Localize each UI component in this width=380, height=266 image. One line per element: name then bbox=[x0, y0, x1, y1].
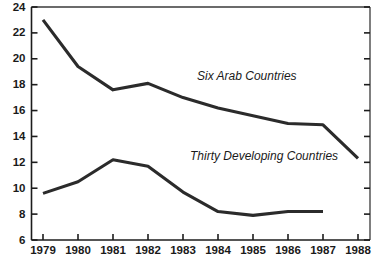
x-tick-label: 1986 bbox=[275, 244, 301, 256]
series-line bbox=[43, 160, 323, 216]
series-label: Thirty Developing Countries bbox=[190, 149, 338, 163]
y-tick-label: 22 bbox=[13, 26, 26, 38]
y-axis-tick-labels: 681012141618202224 bbox=[13, 1, 26, 246]
y-axis-tick-marks bbox=[32, 7, 38, 240]
x-tick-label: 1981 bbox=[100, 244, 126, 256]
y-tick-label: 18 bbox=[13, 78, 26, 90]
y-tick-label: 8 bbox=[19, 208, 26, 220]
x-axis-tick-labels: 1979198019811982198319841985198619871988 bbox=[30, 244, 371, 256]
y-tick-label: 6 bbox=[19, 234, 25, 246]
y-tick-label: 20 bbox=[13, 52, 26, 64]
x-tick-label: 1982 bbox=[135, 244, 161, 256]
x-tick-label: 1979 bbox=[30, 244, 56, 256]
x-tick-label: 1987 bbox=[310, 244, 336, 256]
y-tick-label: 12 bbox=[13, 156, 26, 168]
chart-container: 681012141618202224 197919801981198219831… bbox=[0, 0, 380, 266]
x-tick-label: 1983 bbox=[170, 244, 196, 256]
series-annotation-group: Six Arab CountriesThirty Developing Coun… bbox=[190, 69, 338, 163]
y-tick-label: 16 bbox=[13, 104, 26, 116]
x-tick-label: 1984 bbox=[205, 244, 231, 256]
x-tick-label: 1988 bbox=[345, 244, 371, 256]
y-tick-label: 24 bbox=[13, 1, 26, 13]
x-axis-tick-marks bbox=[43, 234, 358, 240]
y-tick-label: 14 bbox=[13, 130, 26, 142]
data-series-group bbox=[43, 20, 358, 215]
y-axis-tick-marks-right bbox=[364, 7, 370, 240]
series-line bbox=[43, 20, 358, 159]
line-chart: 681012141618202224 197919801981198219831… bbox=[0, 0, 380, 266]
series-label: Six Arab Countries bbox=[197, 69, 297, 83]
x-tick-label: 1985 bbox=[240, 244, 266, 256]
x-tick-label: 1980 bbox=[65, 244, 91, 256]
y-tick-label: 10 bbox=[13, 182, 26, 194]
